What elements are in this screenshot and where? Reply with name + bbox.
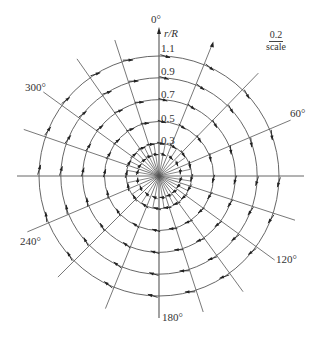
arrowhead-icon [246, 94, 250, 99]
angle-label-180: 180° [162, 312, 183, 323]
arrowhead-icon [116, 209, 120, 214]
arrowhead-icon [187, 186, 191, 191]
angle-label-240: 240° [20, 236, 41, 247]
radius-label-0-3: 0.3 [161, 135, 175, 146]
angle-label-0: 0° [151, 14, 161, 25]
arrowhead-icon [248, 211, 252, 216]
arrowhead-icon [136, 178, 139, 183]
arrowhead-icon [84, 237, 88, 242]
arrowhead-icon [125, 171, 128, 176]
radial-line [159, 43, 213, 176]
arrowhead-icon [140, 185, 143, 190]
arrowhead-icon [208, 257, 213, 260]
scale-key: 0.2 scale [266, 30, 286, 52]
arrowhead-icon [96, 73, 101, 76]
radial-arrow-icon [210, 42, 214, 48]
angle-label-300: 300° [25, 82, 46, 93]
polar-diagram: 0° 60° 120° 180° 240° 300° r/R 1.1 0.9 0… [0, 0, 321, 337]
radial-line [58, 176, 159, 277]
axis-label-r-over-R: r/R [164, 28, 178, 39]
arrowhead-icon [67, 252, 71, 257]
arrowhead-icon [219, 275, 224, 278]
axis-arrow-icon [157, 27, 161, 34]
radial-line [159, 176, 295, 220]
radial-line [77, 59, 159, 176]
radial-line [27, 176, 159, 232]
radial-line [159, 176, 243, 292]
radius-label-0-7: 0.7 [161, 89, 175, 100]
arrowhead-icon [100, 223, 104, 228]
radial-line [105, 176, 159, 309]
radius-label-1-1: 1.1 [161, 43, 175, 54]
arrowhead-icon [129, 128, 134, 131]
radial-line [159, 176, 203, 312]
angle-label-60: 60° [290, 108, 305, 119]
radial-line [43, 92, 159, 176]
radial-line [24, 129, 159, 176]
arrowhead-icon [230, 109, 234, 114]
arrowhead-icon [118, 110, 123, 113]
arrowhead-icon [173, 202, 178, 205]
arrowhead-icon [175, 162, 178, 167]
arrowhead-icon [197, 138, 201, 143]
arrowhead-icon [196, 239, 201, 242]
radius-label-0-5: 0.5 [161, 113, 175, 124]
angle-label-120: 120° [276, 254, 297, 265]
arrowhead-icon [190, 177, 193, 182]
radial-line [115, 40, 159, 176]
arrowhead-icon [185, 220, 190, 223]
radial-line [159, 176, 275, 260]
arrowhead-icon [213, 123, 217, 128]
arrowhead-icon [107, 91, 112, 94]
arrowhead-icon [154, 207, 159, 210]
radius-label-0-9: 0.9 [161, 66, 175, 77]
scale-key-label: scale [266, 41, 286, 52]
arrowhead-icon [179, 170, 182, 175]
arrowhead-icon [207, 194, 211, 199]
radial-line [159, 120, 291, 176]
arrowhead-icon [228, 202, 232, 207]
arrowhead-icon [133, 194, 137, 199]
